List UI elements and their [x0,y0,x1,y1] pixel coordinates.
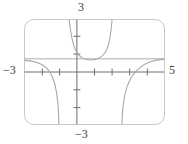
calculator-graph-screenshot: 3 −3 −3 5 [0,0,188,144]
curve-branch-lower-right [122,59,165,125]
x-axis-max-label: 5 [169,64,175,76]
curve-branch-lower-left [24,60,59,125]
x-axis-min-label: −3 [3,64,16,76]
y-axis-max-label: 3 [78,1,84,13]
graph-plot-area [24,19,165,125]
y-axis-min-label: −3 [75,128,88,140]
